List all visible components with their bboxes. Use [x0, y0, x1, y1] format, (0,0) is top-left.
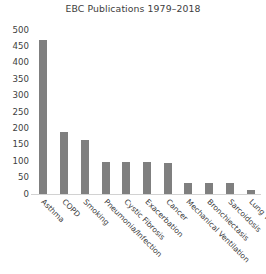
x-label-slot: Cystic Fibrosis [116, 196, 137, 274]
x-axis-tick-labels: AsthmaCOPDSmokingPneumonia/InfectionCyst… [33, 196, 261, 274]
x-label-slot: Sarcoidosis [220, 196, 241, 274]
bar-slot [116, 30, 137, 194]
y-axis-tick-label: 300 [0, 91, 29, 100]
x-label-slot: Asthma [33, 196, 54, 274]
x-axis-line [31, 194, 261, 195]
bar[interactable] [247, 190, 255, 194]
bar-slot [157, 30, 178, 194]
bar[interactable] [81, 140, 89, 194]
bar-slot [137, 30, 158, 194]
bar-slot [54, 30, 75, 194]
y-axis-tick-label: 250 [0, 108, 29, 117]
y-axis-tick-label: 150 [0, 140, 29, 149]
bar-slot [220, 30, 241, 194]
bar[interactable] [164, 163, 172, 194]
bar[interactable] [143, 162, 151, 194]
x-label-slot: Pneumonia/Infection [95, 196, 116, 274]
x-label-slot: Exacerbation [137, 196, 158, 274]
bar[interactable] [39, 40, 47, 194]
x-label-slot: Bronchiectasis [199, 196, 220, 274]
y-axis-tick-label: 400 [0, 58, 29, 67]
bar-slot [199, 30, 220, 194]
bar[interactable] [184, 183, 192, 194]
y-axis-tick-label: 100 [0, 157, 29, 166]
bar-chart: EBC Publications 1979–2018 5004504003503… [0, 0, 266, 274]
x-label-slot: Smoking [74, 196, 95, 274]
bar[interactable] [122, 162, 130, 194]
bar-series [33, 30, 261, 194]
y-axis-tick-label: 50 [0, 173, 29, 182]
x-label-slot: Cancer [157, 196, 178, 274]
x-label-slot: Mechanical Ventilation [178, 196, 199, 274]
y-axis: 500450400350300250200150100500 [0, 30, 29, 194]
y-axis-tick-label: 450 [0, 42, 29, 51]
bar-slot [178, 30, 199, 194]
bar-slot [74, 30, 95, 194]
bar[interactable] [102, 162, 110, 194]
y-axis-tick-label: 500 [0, 26, 29, 35]
bar[interactable] [226, 183, 234, 194]
bar[interactable] [60, 132, 68, 194]
y-axis-tick-label: 350 [0, 75, 29, 84]
chart-title: EBC Publications 1979–2018 [0, 3, 266, 15]
x-axis-tick-label: Lung Transplant [247, 198, 266, 246]
x-label-slot: COPD [54, 196, 75, 274]
y-axis-tick-label: 0 [0, 190, 29, 199]
y-axis-tick-label: 200 [0, 124, 29, 133]
bar[interactable] [205, 183, 213, 194]
bar-slot [95, 30, 116, 194]
bar-slot [240, 30, 261, 194]
bar-slot [33, 30, 54, 194]
x-label-slot: Lung Transplant [240, 196, 261, 274]
